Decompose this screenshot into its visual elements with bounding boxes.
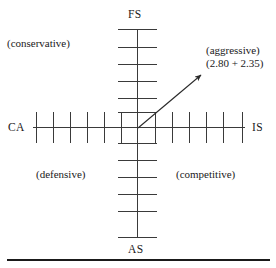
tick-ca-3: [87, 112, 88, 143]
tick-is-3: [189, 112, 190, 143]
axis-label-as: AS: [128, 243, 144, 256]
tick-is-5: [223, 112, 224, 143]
tick-fs-4: [118, 64, 157, 65]
axis-label-fs: FS: [128, 8, 142, 21]
tick-is-2: [172, 112, 173, 143]
tick-fs-6: [118, 29, 157, 30]
tick-fs-5: [118, 47, 157, 48]
tick-ca-5: [53, 112, 54, 143]
tick-as-1: [118, 143, 157, 144]
axis-label-is: IS: [252, 121, 263, 134]
axis-label-ca: CA: [8, 121, 25, 134]
tick-ca-2: [104, 112, 105, 143]
tick-fs-1: [118, 112, 157, 113]
quadrant-label-conservative: (conservative): [7, 37, 70, 50]
tick-ca-1: [121, 112, 122, 143]
horizontal-axis: [33, 127, 245, 128]
tick-as-2: [118, 160, 157, 161]
bottom-divider: [7, 259, 270, 261]
vector-coordinates-label: (2.80 + 2.35): [206, 57, 264, 70]
tick-is-4: [206, 112, 207, 143]
tick-ca-4: [70, 112, 71, 143]
tick-fs-3: [118, 81, 157, 82]
vector-annotation: (aggressive) (2.80 + 2.35): [206, 44, 264, 70]
tick-fs-2: [118, 98, 157, 99]
tick-as-6: [118, 237, 157, 238]
vertical-axis: [137, 29, 138, 238]
tick-is-1: [155, 112, 156, 143]
quadrant-label-competitive: (competitive): [176, 168, 235, 181]
tick-as-4: [118, 194, 157, 195]
tick-as-5: [118, 211, 157, 212]
tick-ca-6: [36, 112, 37, 143]
quadrant-label-defensive: (defensive): [36, 168, 85, 181]
tick-is-6: [242, 112, 243, 143]
space-matrix-diagram: FS AS CA IS (conservative) (defensive) (…: [0, 0, 276, 268]
quadrant-label-aggressive: (aggressive): [206, 44, 264, 57]
tick-as-3: [118, 177, 157, 178]
